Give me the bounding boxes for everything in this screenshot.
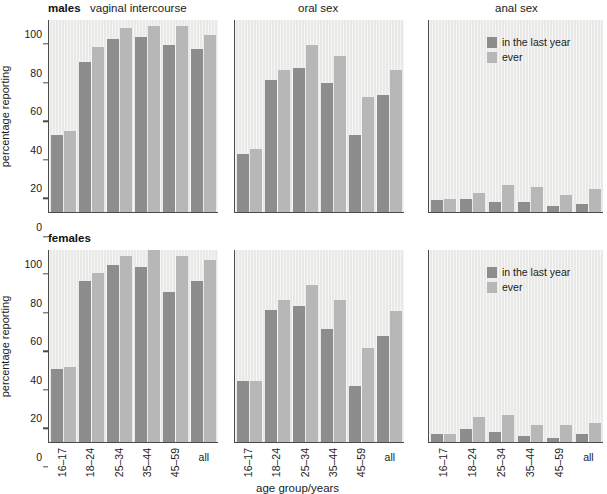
bar — [92, 47, 104, 212]
legend-swatch-ever-icon — [487, 282, 497, 293]
bar — [460, 429, 472, 442]
bar-group — [348, 20, 376, 212]
x-tick: 35–44 — [133, 445, 161, 491]
legend-label-ever: ever — [502, 281, 522, 293]
panel-title-males-anal: anal sex — [495, 2, 538, 14]
bar-group — [376, 20, 404, 212]
bar-group — [348, 250, 376, 442]
plot-area-females-anal: in the last year ever — [428, 250, 603, 443]
bar — [135, 267, 147, 442]
y-axis-label-females: percentage reporting — [0, 250, 11, 443]
x-tick-label: 18–24 — [84, 448, 96, 477]
bar — [518, 436, 530, 442]
bar-group — [134, 250, 162, 442]
bar-group — [458, 20, 487, 212]
x-tick: 16–17 — [48, 445, 76, 491]
row-title-females: females — [48, 232, 91, 244]
bar — [390, 70, 402, 212]
y-tick-males-80: 80 — [30, 67, 42, 79]
panel-title-males-vaginal: vaginal intercourse — [90, 2, 187, 14]
x-tick-label: all — [583, 451, 594, 463]
bar — [362, 348, 374, 442]
x-tick-label: 16–17 — [437, 448, 449, 477]
legend-label-last-year: in the last year — [502, 36, 570, 48]
bar — [107, 39, 119, 212]
bar — [444, 199, 456, 212]
bar — [502, 415, 514, 442]
x-tick-label: all — [199, 451, 210, 463]
x-tick-label: 35–44 — [141, 448, 153, 477]
bar — [377, 95, 389, 212]
y-tick-females-20: 20 — [30, 412, 42, 424]
bar — [237, 154, 249, 212]
bar-group — [77, 250, 105, 442]
panel-females-vaginal: 16–1718–2425–3435–4445–59all — [48, 250, 218, 443]
bar-group — [263, 20, 291, 212]
bar-group — [235, 20, 263, 212]
panel-title-males-oral: oral sex — [298, 2, 338, 14]
bar — [547, 438, 559, 442]
bar — [560, 425, 572, 442]
bar-group — [235, 250, 263, 442]
bar — [502, 185, 514, 212]
bar — [293, 68, 305, 212]
bar — [334, 56, 346, 212]
legend-females-anal: in the last year ever — [487, 266, 570, 296]
bar — [79, 281, 91, 442]
chart-row-males: males vaginal intercourse oral sex anal … — [0, 0, 607, 232]
bar — [321, 329, 333, 442]
legend-item-last-year: in the last year — [487, 36, 570, 48]
bar — [278, 70, 290, 212]
bar — [489, 202, 501, 212]
x-tick-label: 16–17 — [242, 448, 254, 477]
bar-group — [320, 250, 348, 442]
y-tick-females-80: 80 — [30, 297, 42, 309]
x-tick: 18–24 — [457, 445, 486, 491]
bar — [589, 189, 601, 212]
x-tick-label: 45–59 — [553, 448, 565, 477]
legend-item-ever: ever — [487, 281, 570, 293]
legend-label-last-year: in the last year — [502, 266, 570, 278]
x-tick-label: all — [385, 451, 396, 463]
panel-males-oral — [234, 20, 404, 213]
bar — [518, 202, 530, 212]
legend-males-anal: in the last year ever — [487, 36, 570, 66]
bar — [306, 45, 318, 212]
bar — [64, 367, 76, 442]
x-tick-label: 18–24 — [466, 448, 478, 477]
bar — [64, 131, 76, 212]
legend-swatch-last-year-icon — [487, 267, 497, 278]
bar — [148, 26, 160, 212]
panel-males-anal: in the last year ever — [428, 20, 603, 213]
bar — [204, 260, 216, 442]
bar-group — [291, 20, 319, 212]
bar-group — [105, 250, 133, 442]
y-tick-females-0: 0 — [36, 451, 42, 463]
bar — [489, 432, 501, 442]
bar-group — [105, 20, 133, 212]
bar — [349, 135, 361, 212]
bar — [576, 204, 588, 212]
bar-group — [574, 250, 603, 442]
bar — [293, 306, 305, 442]
bar — [250, 381, 262, 442]
x-axis-label: age group/years — [256, 482, 339, 494]
x-tick-label: 25–34 — [113, 448, 125, 477]
bar — [431, 200, 443, 212]
x-tick: all — [190, 445, 218, 491]
bar-group — [429, 250, 458, 442]
bar-group — [376, 250, 404, 442]
x-tick-label: 35–44 — [327, 448, 339, 477]
x-tick-label: 45–59 — [169, 448, 181, 477]
panel-males-vaginal — [48, 20, 218, 213]
x-tick: 45–59 — [161, 445, 189, 491]
bar — [237, 381, 249, 442]
bar — [51, 369, 63, 442]
bar — [531, 187, 543, 212]
x-tick-label: 18–24 — [270, 448, 282, 477]
bar — [589, 423, 601, 442]
bar — [79, 62, 91, 212]
plot-area-males-vaginal — [48, 20, 218, 213]
bar — [576, 434, 588, 442]
bar — [473, 193, 485, 212]
